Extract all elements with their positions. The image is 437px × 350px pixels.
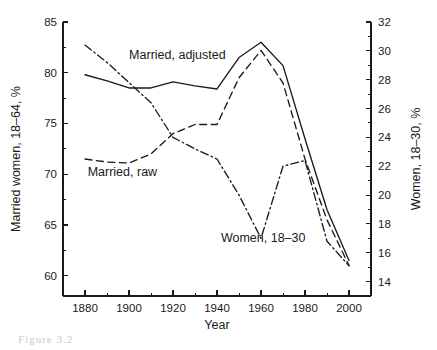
- y2-ticklabel: 32: [378, 16, 391, 28]
- y-ticklabel: 60: [44, 270, 57, 282]
- line-chart: 606570758085 14161820222426283032 188019…: [0, 0, 437, 350]
- y2-ticklabel: 16: [378, 247, 391, 259]
- y2-ticklabel: 26: [378, 103, 391, 115]
- y2-ticklabel: 24: [378, 131, 391, 143]
- figure-container: 606570758085 14161820222426283032 188019…: [0, 0, 437, 350]
- data-curves: [85, 42, 349, 265]
- x-ticklabel: 1900: [116, 302, 142, 314]
- left-axis-ticks: [63, 22, 68, 276]
- y2-ticklabel: 18: [378, 218, 391, 230]
- series-label-dashed: Married, raw: [88, 165, 158, 179]
- y2-ticklabel: 30: [378, 45, 391, 57]
- left-axis-ticklabels: 606570758085: [44, 16, 57, 282]
- bottom-axis-ticklabels: 1880190019201940196019802000: [72, 302, 362, 314]
- x-ticklabel: 1980: [292, 302, 318, 314]
- right-axis-ticks: [366, 22, 371, 282]
- y-ticklabel: 80: [44, 67, 57, 79]
- x-ticklabel: 2000: [336, 302, 362, 314]
- y2-ticklabel: 20: [378, 189, 391, 201]
- series-annotations: Married, adjustedMarried, rawWomen, 18–3…: [88, 48, 306, 246]
- figure-caption-partial: Figure 3.2: [18, 333, 73, 345]
- x-ticklabel: 1880: [72, 302, 98, 314]
- x-ticklabel: 1960: [248, 302, 274, 314]
- right-axis-ticklabels: 14161820222426283032: [378, 16, 391, 288]
- x-axis-title: Year: [204, 318, 229, 332]
- x-ticklabel: 1940: [204, 302, 230, 314]
- y-ticklabel: 75: [44, 117, 57, 129]
- series-label-solid: Married, adjusted: [129, 48, 226, 62]
- series-label-dashdot: Women, 18–30: [221, 231, 306, 245]
- series-line-dashdot: [85, 45, 349, 266]
- y-ticklabel: 70: [44, 168, 57, 180]
- series-line-solid: [85, 42, 349, 260]
- y2-ticklabel: 22: [378, 160, 391, 172]
- y-ticklabel: 85: [44, 16, 57, 28]
- y-ticklabel: 65: [44, 219, 57, 231]
- series-line-dashed: [85, 50, 349, 265]
- y2-ticklabel: 14: [378, 276, 391, 288]
- bottom-axis-ticks: [63, 290, 371, 296]
- y2-axis-title: Women, 18–30, %: [409, 108, 423, 211]
- x-ticklabel: 1920: [160, 302, 186, 314]
- y-axis-title: Married women, 18–64, %: [9, 86, 23, 232]
- y2-ticklabel: 28: [378, 74, 391, 86]
